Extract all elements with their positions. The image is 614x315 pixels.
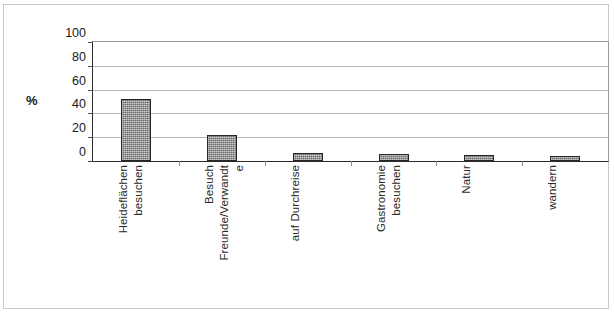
bar <box>464 155 494 161</box>
x-axis-label-line: Besuch <box>203 165 216 204</box>
x-axis-label-gastronomie-besuchen: Gastronomiebesuchen <box>375 165 403 232</box>
x-axis-label-line: Heideflächen <box>117 165 130 233</box>
gridline-60 <box>93 90 608 91</box>
y-tick-label: 40 <box>44 98 86 110</box>
y-tickmark-80 <box>88 66 93 67</box>
x-axis-label-line: auf Durchreise <box>289 165 302 241</box>
y-axis-unit-label: % <box>26 93 38 108</box>
x-axis-label-line: besuchen <box>390 165 403 216</box>
bar <box>293 153 323 161</box>
y-tick-label: 100 <box>44 27 86 39</box>
y-tickmark-60 <box>88 90 93 91</box>
gridline-20 <box>93 137 608 138</box>
y-axis-tick-labels: 100 80 60 40 20 0 <box>44 33 86 167</box>
x-axis-label-heideflaechen-besuchen: Heideflächenbesuchen <box>117 165 145 233</box>
y-tick-label: 80 <box>44 51 86 63</box>
y-tickmark-100 <box>88 42 93 43</box>
x-axis-label-auf-durchreise: auf Durchreise <box>289 165 302 241</box>
figure-frame: % 100 80 60 40 20 0 Heideflächenbesuchen <box>3 4 609 309</box>
x-axis-label-line: Natur <box>460 165 473 194</box>
plot-area <box>92 41 609 162</box>
x-axis-label-natur: Natur <box>460 165 473 194</box>
gridline-40 <box>93 113 608 114</box>
x-axis-label-line: e <box>233 165 246 172</box>
y-tickmark-20 <box>88 137 93 138</box>
y-tickmark-40 <box>88 113 93 114</box>
x-axis-label-line: Freunde/Verwandt <box>218 165 231 261</box>
x-axis-label-line: Gastronomie <box>375 165 388 232</box>
x-axis-label-wandern: wandern <box>546 165 559 210</box>
bar <box>550 156 580 161</box>
x-axis-label-besuch-freunde-verwandte: BesuchFreunde/Verwandte <box>203 165 246 261</box>
bar <box>121 99 151 161</box>
x-axis-label-line: wandern <box>546 165 559 210</box>
x-axis-category-labels: Heideflächenbesuchen BesuchFreunde/Verwa… <box>92 165 607 305</box>
gridline-80 <box>93 66 608 67</box>
x-axis-label-line: besuchen <box>132 165 145 216</box>
y-tick-label: 60 <box>44 75 86 87</box>
bar <box>207 135 237 161</box>
y-tick-label: 20 <box>44 122 86 134</box>
y-tick-label: 0 <box>44 146 86 158</box>
bar <box>379 154 409 161</box>
y-tickmark-0 <box>88 161 93 162</box>
